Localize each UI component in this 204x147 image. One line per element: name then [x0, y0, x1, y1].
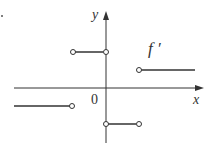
open-endpoint — [137, 68, 142, 73]
open-endpoint — [137, 122, 142, 127]
open-endpoint — [104, 122, 109, 127]
x-axis-arrow-icon — [195, 85, 204, 91]
step-function-graph: y x 0 f ′ — [0, 0, 204, 147]
x-axis-label: x — [192, 92, 200, 107]
segment-right — [137, 68, 196, 73]
function-label: f ′ — [148, 39, 161, 58]
stray-mark — [1, 15, 3, 17]
y-axis-label: y — [90, 7, 99, 22]
segment-left — [14, 104, 75, 109]
segment-lower-middle — [104, 122, 142, 127]
open-endpoint — [70, 104, 75, 109]
segment-upper-middle — [71, 50, 109, 55]
y-axis-arrow-icon — [103, 11, 109, 20]
origin-label: 0 — [91, 92, 98, 107]
x-axis — [14, 85, 204, 91]
open-endpoint — [104, 50, 109, 55]
open-endpoint — [71, 50, 76, 55]
